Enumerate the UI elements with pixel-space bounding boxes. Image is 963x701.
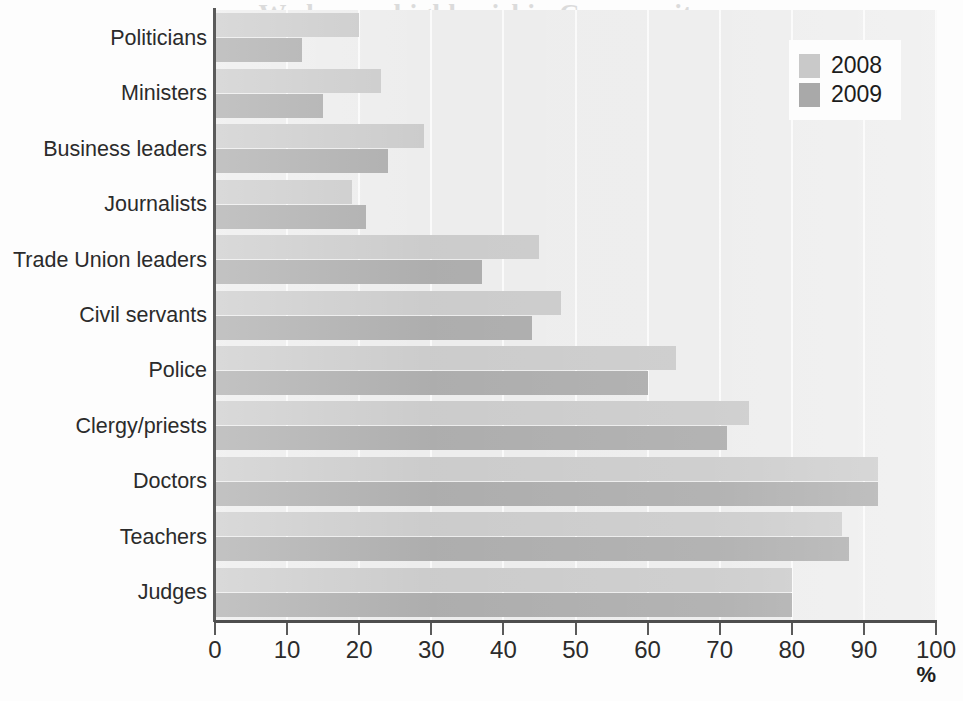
category-label-teachers: Teachers (2, 524, 207, 549)
bar-clergy-priests-2009 (215, 426, 727, 450)
bar-doctors-2008 (215, 457, 878, 481)
x-tick-label: 10 (274, 636, 301, 664)
x-tick-label: 70 (706, 636, 733, 664)
x-tick-label: 50 (562, 636, 589, 664)
y-axis-line (213, 8, 216, 622)
x-tick (286, 623, 288, 635)
x-tick-label: 80 (778, 636, 805, 664)
bar-ministers-2009 (215, 94, 323, 118)
category-label-judges: Judges (2, 580, 207, 605)
bar-trade-union-leaders-2008 (215, 235, 539, 259)
bar-journalists-2009 (215, 205, 366, 229)
bar-police-2008 (215, 346, 676, 370)
bar-civil-servants-2009 (215, 316, 532, 340)
x-tick (214, 623, 216, 635)
legend-item-2008[interactable]: 2008 (799, 51, 901, 80)
legend-item-2009[interactable]: 2009 (799, 80, 901, 109)
bar-clergy-priests-2008 (215, 401, 749, 425)
category-label-clergy-priests: Clergy/priests (2, 413, 207, 438)
category-label-civil-servants: Civil servants (2, 303, 207, 328)
x-tick-label: 60 (634, 636, 661, 664)
x-tick (863, 623, 865, 635)
legend-label: 2009 (831, 83, 882, 106)
chart-page: n. We have a highly riskin Community the… (0, 0, 963, 701)
legend-label: 2008 (831, 54, 882, 77)
x-tick-label: 0 (208, 636, 221, 664)
bar-teachers-2008 (215, 512, 842, 536)
x-axis-unit-label: % (916, 662, 936, 688)
x-tick-label: 20 (346, 636, 373, 664)
bar-journalists-2008 (215, 180, 352, 204)
bar-civil-servants-2008 (215, 291, 561, 315)
legend[interactable]: 2008 2009 (789, 40, 901, 120)
bar-teachers-2009 (215, 537, 849, 561)
x-tick (575, 623, 577, 635)
category-label-politicians: Politicians (2, 25, 207, 50)
x-tick-label: 100 (916, 636, 956, 664)
category-label-police: Police (2, 358, 207, 383)
x-tick-label: 30 (418, 636, 445, 664)
x-tick (430, 623, 432, 635)
bar-ministers-2008 (215, 69, 381, 93)
category-label-ministers: Ministers (2, 81, 207, 106)
category-label-business-leaders: Business leaders (2, 136, 207, 161)
bar-judges-2009 (215, 593, 792, 617)
category-label-trade-union-leaders: Trade Union leaders (2, 247, 207, 272)
bar-trade-union-leaders-2009 (215, 260, 482, 284)
x-tick (935, 623, 937, 635)
category-label-doctors: Doctors (2, 469, 207, 494)
legend-swatch-icon (799, 54, 820, 78)
x-tick (719, 623, 721, 635)
x-tick (791, 623, 793, 635)
category-label-journalists: Journalists (2, 192, 207, 217)
bar-police-2009 (215, 371, 648, 395)
x-tick-label: 40 (490, 636, 517, 664)
bar-business-leaders-2009 (215, 149, 388, 173)
x-tick (358, 623, 360, 635)
bar-business-leaders-2008 (215, 124, 424, 148)
gridline (935, 10, 937, 620)
x-tick (502, 623, 504, 635)
y-axis-category-labels: PoliticiansMinistersBusiness leadersJour… (0, 0, 207, 701)
bar-judges-2008 (215, 568, 792, 592)
x-tick-label: 90 (851, 636, 878, 664)
legend-swatch-icon (799, 83, 820, 107)
bar-politicians-2008 (215, 13, 359, 37)
bar-politicians-2009 (215, 38, 302, 62)
bar-doctors-2009 (215, 482, 878, 506)
x-tick (647, 623, 649, 635)
